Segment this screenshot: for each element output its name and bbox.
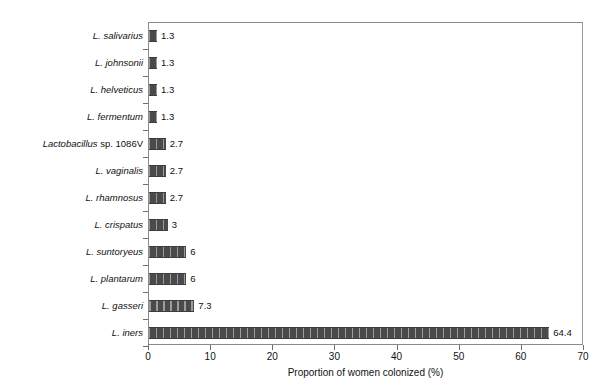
bar-value-label: 7.3 [198,300,211,312]
bar-category-label: L. gasseri [0,300,143,312]
x-axis-tick-label: 50 [439,351,479,363]
x-axis-tick-label: 60 [501,351,541,363]
bar-category-label: L. plantarum [0,273,143,285]
x-axis: Proportion of women colonized (%) 010203… [0,345,603,377]
bar-row: L. johnsonii1.3 [0,49,603,76]
bar-category-label: L. helveticus [0,84,143,96]
bar [149,138,166,150]
bar-row: L. plantarum6 [0,265,603,292]
x-axis-tick [272,345,273,350]
bar-category-label: L. suntoryeus [0,246,143,258]
bar-row: L. fermentum1.3 [0,103,603,130]
bar-value-label: 6 [190,246,195,258]
bar-row: L. salivarius1.3 [0,22,603,49]
bar-container: 1.3 [149,57,174,69]
bar [149,111,157,123]
bar [149,192,166,204]
bar-category-label: L. vaginalis [0,165,143,177]
bar-row: L. suntoryeus6 [0,238,603,265]
x-axis-title: Proportion of women colonized (%) [148,367,583,379]
bar [149,165,166,177]
bar-category-label: L. iners [0,327,143,339]
x-axis-tick [148,345,149,350]
bar [149,300,194,312]
bar-row: L. vaginalis2.7 [0,157,603,184]
bar-category-label: L. crispatus [0,219,143,231]
bar [149,57,157,69]
bar-row: L. iners64.4 [0,319,603,346]
bar-row: L. crispatus3 [0,211,603,238]
bar-container: 3 [149,219,177,231]
x-axis-tick [397,345,398,350]
bar-value-label: 1.3 [161,57,174,69]
x-axis-tick [334,345,335,350]
bar-container: 1.3 [149,111,174,123]
bar [149,84,157,96]
bar-category-label: L. rhamnosus [0,192,143,204]
bar-container: 7.3 [149,300,212,312]
bar [149,246,186,258]
bar [149,327,549,339]
x-axis-tick-label: 0 [128,351,168,363]
bar-category-label: L. johnsonii [0,57,143,69]
bar-row: L. rhamnosus2.7 [0,184,603,211]
bar-value-label: 2.7 [170,192,183,204]
bar-container: 6 [149,273,196,285]
x-axis-tick-label: 30 [314,351,354,363]
bar-category-label: L. salivarius [0,30,143,42]
bar-value-label: 2.7 [170,138,183,150]
bar-container: 64.4 [149,327,572,339]
bar-category-label: Lactobacillus sp. 1086V [0,138,143,150]
x-axis-tick [459,345,460,350]
bar-value-label: 64.4 [553,327,572,339]
bar-container: 6 [149,246,196,258]
bars-layer: L. salivarius1.3L. johnsonii1.3L. helvet… [0,22,603,345]
x-axis-tick-label: 10 [190,351,230,363]
bar-value-label: 1.3 [161,84,174,96]
x-axis-tick-label: 70 [563,351,603,363]
x-axis-tick [210,345,211,350]
bar-value-label: 6 [190,273,195,285]
bar-row: L. gasseri7.3 [0,292,603,319]
bar-container: 1.3 [149,84,174,96]
x-axis-tick-label: 40 [377,351,417,363]
bar-value-label: 1.3 [161,30,174,42]
x-axis-tick-label: 20 [252,351,292,363]
bar [149,219,168,231]
x-axis-tick [583,345,584,350]
bar-container: 2.7 [149,138,183,150]
bar [149,273,186,285]
bar-row: Lactobacillus sp. 1086V2.7 [0,130,603,157]
bar [149,30,157,42]
x-axis-tick [521,345,522,350]
bar-value-label: 1.3 [161,111,174,123]
bar-value-label: 2.7 [170,165,183,177]
bar-container: 1.3 [149,30,174,42]
bar-container: 2.7 [149,165,183,177]
bar-container: 2.7 [149,192,183,204]
bar-category-label: L. fermentum [0,111,143,123]
bar-value-label: 3 [172,219,177,231]
bar-row: L. helveticus1.3 [0,76,603,103]
